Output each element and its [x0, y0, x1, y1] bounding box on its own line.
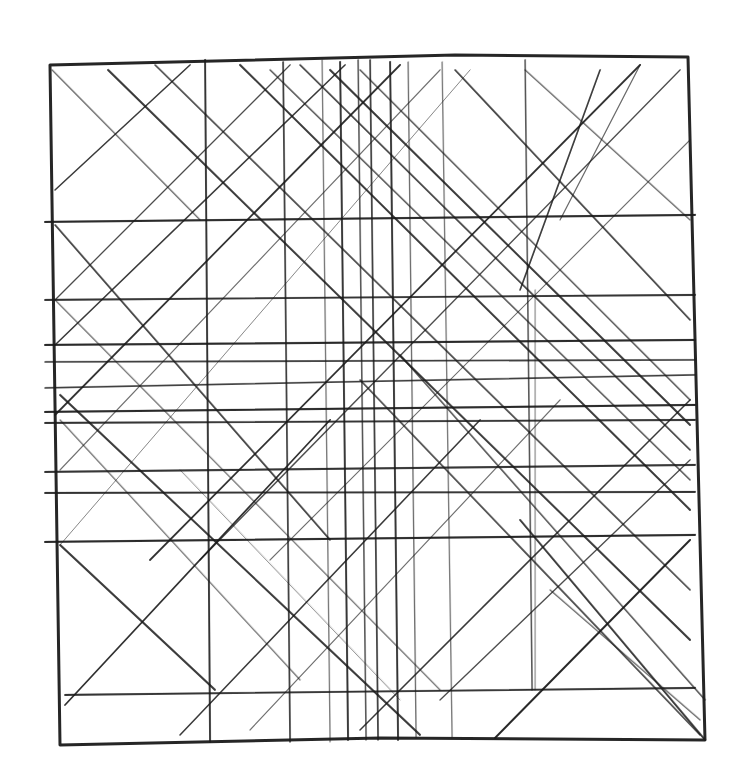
paper-background — [0, 0, 738, 783]
pencil-grid-drawing — [0, 0, 738, 783]
